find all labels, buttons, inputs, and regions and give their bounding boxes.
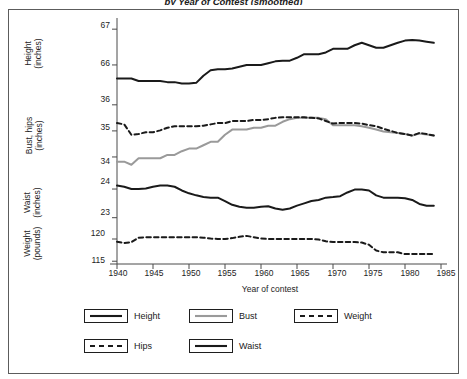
legend-label-bust: Bust <box>239 311 257 321</box>
xtick-1980: 1980 <box>395 269 425 278</box>
xtick-1955: 1955 <box>212 269 242 278</box>
line-swatch-solid-gray-bust <box>189 309 233 323</box>
xtick-1940: 1940 <box>103 269 133 278</box>
legend-label-hips: Hips <box>134 341 152 351</box>
legend: Height Bust Weight Hips Waist <box>84 303 384 365</box>
figure-title: by Year of Contest (smoothed) <box>0 0 467 5</box>
ytick-weight-120: 120 <box>79 229 105 238</box>
panel-label-bust-hips-line2: (inches) <box>34 98 44 174</box>
xtick-1945: 1945 <box>139 269 169 278</box>
line-swatch-dashed-black-hips <box>84 339 128 353</box>
legend-item-waist[interactable]: Waist <box>189 339 261 353</box>
x-axis-label: Year of contest <box>170 284 370 294</box>
xtick-1975: 1975 <box>358 269 388 278</box>
ytick-waist-24: 24 <box>84 177 110 186</box>
line-swatch-dashed-black-weight <box>294 309 338 323</box>
legend-label-waist: Waist <box>239 341 261 351</box>
panel-label-weight-line2: (pounds) <box>32 211 42 277</box>
ytick-weight-115: 115 <box>79 256 105 265</box>
panel-label-weight: Weight (pounds) <box>23 211 42 277</box>
ytick-waist-23: 23 <box>84 208 110 217</box>
legend-item-hips[interactable]: Hips <box>84 339 152 353</box>
ytick-height-67: 67 <box>84 21 110 30</box>
legend-label-height: Height <box>134 311 160 321</box>
legend-item-weight[interactable]: Weight <box>294 309 372 323</box>
legend-label-weight: Weight <box>344 311 372 321</box>
chart-figure: by Year of Contest (smoothed) Height (in… <box>0 0 467 379</box>
xtick-1965: 1965 <box>285 269 315 278</box>
legend-item-bust[interactable]: Bust <box>189 309 257 323</box>
ytick-bust-35: 35 <box>84 123 110 132</box>
ytick-bust-36: 36 <box>84 95 110 104</box>
panel-label-height-line2: (inches) <box>33 19 43 89</box>
xtick-1970: 1970 <box>322 269 352 278</box>
line-swatch-solid-black-height <box>84 309 128 323</box>
panel-label-height: Height (inches) <box>24 19 43 89</box>
panel-label-bust-hips: Bust, hips (inches) <box>25 98 44 174</box>
xtick-1985: 1985 <box>431 269 461 278</box>
line-swatch-solid-black-waist <box>189 339 233 353</box>
xtick-1950: 1950 <box>176 269 206 278</box>
legend-item-height[interactable]: Height <box>84 309 160 323</box>
xtick-1960: 1960 <box>249 269 279 278</box>
ytick-bust-34: 34 <box>84 157 110 166</box>
ytick-height-66: 66 <box>84 59 110 68</box>
